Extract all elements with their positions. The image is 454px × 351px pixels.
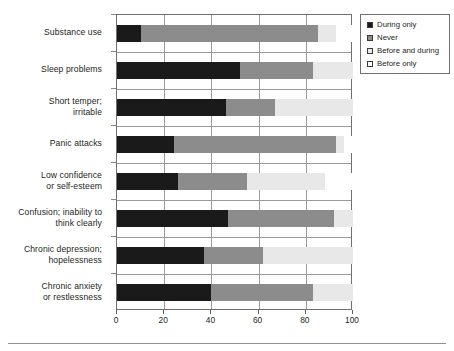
category-label-line: Confusion; inability to — [0, 207, 102, 217]
bar-segment-before-and-during — [313, 62, 353, 79]
bar-segment-before-and-during — [247, 173, 325, 190]
bar-row — [117, 247, 353, 264]
bar-segment-never — [240, 62, 313, 79]
bottom-divider — [8, 343, 446, 344]
x-tick-label-0: 0 — [114, 315, 119, 325]
bar-segment-never — [174, 136, 337, 153]
category-label-line: or self-esteem — [0, 181, 102, 191]
legend-swatch-during-only — [367, 22, 373, 28]
y-tick-mark — [111, 162, 116, 163]
legend-item-during-only: During only — [367, 20, 444, 29]
bar-row — [117, 284, 353, 301]
stacked-bar-chart-figure: Substance useSleep problemsShort temper;… — [0, 0, 454, 351]
category-label-line: Chronic anxiety — [0, 281, 102, 291]
category-label-0: Substance use — [0, 27, 102, 37]
category-label-line: Low confidence — [0, 170, 102, 180]
bar-segment-during-only — [117, 25, 141, 42]
x-tick-mark-80 — [305, 310, 306, 314]
bar-segment-during-only — [117, 210, 228, 227]
bar-segment-before-and-during — [318, 25, 337, 42]
y-tick-mark — [111, 236, 116, 237]
bar-segment-before-only — [344, 136, 353, 153]
category-label-2: Short temper;irritable — [0, 96, 102, 116]
x-tick-label-20: 20 — [159, 315, 168, 325]
bar-segment-before-and-during — [275, 99, 353, 116]
x-tick-mark-20 — [163, 310, 164, 314]
bar-segment-before-and-during — [263, 247, 353, 264]
x-tick-label-80: 80 — [300, 315, 309, 325]
x-tick-mark-100 — [352, 310, 353, 314]
y-tick-mark — [111, 51, 116, 52]
legend-swatch-before-only — [367, 61, 373, 67]
legend-swatch-before-and-during — [367, 48, 373, 54]
legend-item-before-only: Before only — [367, 59, 444, 68]
category-label-5: Confusion; inability tothink clearly — [0, 207, 102, 227]
y-tick-mark — [111, 273, 116, 274]
bar-row — [117, 136, 353, 153]
x-tick-label-100: 100 — [345, 315, 359, 325]
bar-segment-never — [226, 99, 276, 116]
bar-segment-never — [211, 284, 312, 301]
category-axis: Substance useSleep problemsShort temper;… — [0, 14, 108, 310]
bar-segment-never — [141, 25, 318, 42]
bar-segment-before-only — [325, 173, 353, 190]
category-label-line: think clearly — [0, 218, 102, 228]
x-tick-label-40: 40 — [206, 315, 215, 325]
plot-area — [116, 14, 352, 310]
legend-item-before-and-during: Before and during — [367, 46, 444, 55]
category-label-line: irritable — [0, 107, 102, 117]
y-tick-mark — [111, 199, 116, 200]
legend-item-never: Never — [367, 33, 444, 42]
x-tick-mark-0 — [116, 310, 117, 314]
bar-row — [117, 210, 353, 227]
legend-label: Before and during — [377, 46, 439, 55]
bar-row — [117, 25, 353, 42]
x-axis: 020406080100 — [116, 310, 352, 334]
category-label-line: Short temper; — [0, 96, 102, 106]
x-tick-mark-60 — [258, 310, 259, 314]
y-tick-mark — [111, 88, 116, 89]
bar-segment-never — [178, 173, 246, 190]
chart-legend: During onlyNeverBefore and duringBefore … — [360, 14, 450, 74]
bar-segment-before-and-during — [336, 136, 343, 153]
bar-segment-never — [204, 247, 263, 264]
category-label-line: Substance use — [0, 27, 102, 37]
bar-segment-during-only — [117, 173, 178, 190]
legend-label: Before only — [377, 59, 416, 68]
category-label-3: Panic attacks — [0, 138, 102, 148]
bar-segment-during-only — [117, 62, 240, 79]
bar-segment-during-only — [117, 136, 174, 153]
legend-label: During only — [377, 20, 416, 29]
bar-segment-never — [228, 210, 334, 227]
bar-row — [117, 99, 353, 116]
category-label-line: hopelessness — [0, 255, 102, 265]
bar-segment-during-only — [117, 99, 226, 116]
category-label-line: or restlessness — [0, 292, 102, 302]
x-tick-label-60: 60 — [253, 315, 262, 325]
bar-segment-before-and-during — [334, 210, 353, 227]
category-label-line: Chronic depression; — [0, 244, 102, 254]
legend-label: Never — [377, 33, 398, 42]
bar-row — [117, 62, 353, 79]
bar-segment-before-and-during — [313, 284, 353, 301]
bar-segment-before-only — [336, 25, 353, 42]
category-label-line: Panic attacks — [0, 138, 102, 148]
bar-segment-during-only — [117, 284, 211, 301]
category-label-1: Sleep problems — [0, 64, 102, 74]
category-label-6: Chronic depression;hopelessness — [0, 244, 102, 264]
legend-swatch-never — [367, 35, 373, 41]
y-tick-mark — [111, 125, 116, 126]
x-tick-mark-40 — [210, 310, 211, 314]
y-tick-mark — [111, 14, 116, 15]
bar-series-container — [117, 15, 351, 309]
category-label-7: Chronic anxietyor restlessness — [0, 281, 102, 301]
category-label-line: Sleep problems — [0, 64, 102, 74]
bar-segment-during-only — [117, 247, 204, 264]
category-label-4: Low confidenceor self-esteem — [0, 170, 102, 190]
bar-row — [117, 173, 353, 190]
